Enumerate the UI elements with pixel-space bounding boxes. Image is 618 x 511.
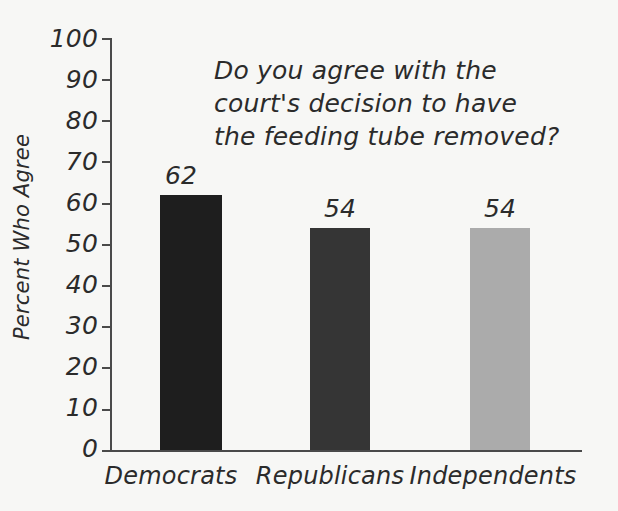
y-tick-label-30: 30	[26, 313, 98, 338]
bar-value-republicans: 54	[290, 196, 390, 221]
chart-title-line-2: court's decision to have	[214, 87, 544, 120]
x-tick-label-republicans: Republicans	[250, 462, 410, 490]
chart-title-line-1: Do you agree with the	[214, 54, 544, 87]
y-tick-label-10: 10	[26, 395, 98, 420]
y-tick-label-80: 80	[26, 108, 98, 133]
chart-title: Do you agree with the court's decision t…	[214, 54, 544, 153]
y-tick-label-0: 0	[26, 436, 98, 461]
x-tick-label-democrats: Democrats	[91, 462, 251, 490]
y-tick-label-100: 100	[26, 26, 98, 51]
bar-value-democrats: 62	[131, 163, 231, 188]
bar-chart-figure: Percent Who Agree 100 90 80 70 60 50 40 …	[0, 0, 618, 511]
y-axis-tick-labels: 100 90 80 70 60 50 40 30 20 10 0	[18, 0, 98, 511]
bar-democrats[interactable]	[160, 195, 222, 450]
y-tick-label-90: 90	[26, 67, 98, 92]
bar-republicans[interactable]	[310, 228, 370, 450]
bar-value-independents: 54	[450, 196, 550, 221]
x-axis-line	[110, 450, 582, 452]
y-tick-label-70: 70	[26, 149, 98, 174]
bar-independents[interactable]	[470, 228, 530, 450]
x-tick-label-independents: Independents	[408, 462, 578, 490]
chart-title-line-3: the feeding tube removed?	[214, 120, 544, 153]
y-tick-label-20: 20	[26, 354, 98, 379]
y-tick-label-50: 50	[26, 231, 98, 256]
y-tick-label-60: 60	[26, 190, 98, 215]
y-tick-label-40: 40	[26, 272, 98, 297]
